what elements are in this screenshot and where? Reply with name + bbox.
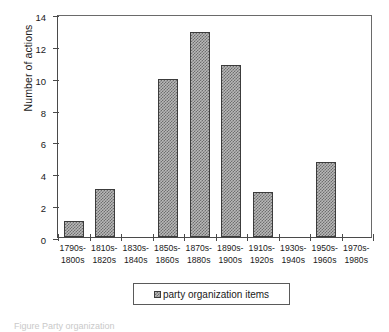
legend-item-label: party organization items (163, 289, 269, 300)
y-axis-tick-label: 2 (41, 203, 46, 214)
x-axis-category-label-line: 1940s (278, 255, 310, 267)
x-axis-category-label-line: 1840s (120, 255, 152, 267)
x-axis-category-label-line: 1880s (183, 255, 215, 267)
x-axis-category-label: 1930s-1940s (278, 243, 310, 266)
x-axis-category-label-line: 1900s (215, 255, 247, 267)
x-axis-category-label: 1950s-1960s (309, 243, 341, 266)
y-axis-tick-label: 4 (41, 171, 46, 182)
x-axis-category-label-line: 1930s- (278, 243, 310, 255)
bar (64, 221, 84, 237)
x-axis-tick (373, 234, 374, 241)
x-axis-category-label-line: 1920s (246, 255, 278, 267)
bar (316, 162, 336, 237)
y-axis-tick-label: 0 (41, 235, 46, 246)
bar (253, 192, 273, 237)
x-axis-category-label: 1910s-1920s (246, 243, 278, 266)
y-axis-tick-label: 14 (35, 12, 46, 23)
figure-caption: Figure Party organization (14, 321, 115, 332)
x-axis-category-label-line: 1850s- (152, 243, 184, 255)
bar (221, 65, 241, 237)
x-axis-category-label-line: 1890s- (215, 243, 247, 255)
x-axis-category-label-line: 1980s (341, 255, 373, 267)
x-axis-category-label-line: 1870s- (183, 243, 215, 255)
y-axis-title: Number of actions (22, 0, 34, 148)
bar (158, 79, 178, 237)
x-axis-category-label: 1790s-1800s (57, 243, 89, 266)
x-axis-category-label: 1830s-1840s (120, 243, 152, 266)
x-axis-category-label-line: 1860s (152, 255, 184, 267)
x-axis-category-label-line: 1810s- (89, 243, 121, 255)
chart-legend: party organization items (133, 283, 290, 305)
bar-series-party-organization-items (58, 16, 371, 237)
x-axis-category-label-line: 1950s- (309, 243, 341, 255)
legend-swatch-icon (154, 291, 161, 298)
y-axis-tick-label: 8 (41, 107, 46, 118)
x-axis-category-label: 1970s-1980s (341, 243, 373, 266)
bar (95, 189, 115, 237)
x-axis-category-label-line: 1830s- (120, 243, 152, 255)
x-axis-category-label: 1890s-1900s (215, 243, 247, 266)
x-axis-category-labels: 1790s-1800s1810s-1820s1830s-1840s1850s-1… (57, 243, 372, 275)
plot-area: 02468101214 (57, 15, 372, 238)
y-axis-tick-label: 12 (35, 43, 46, 54)
y-axis-tick-label: 10 (35, 75, 46, 86)
x-axis-category-label: 1810s-1820s (89, 243, 121, 266)
x-axis-category-label-line: 1960s (309, 255, 341, 267)
y-axis-tick-label: 6 (41, 139, 46, 150)
x-axis-category-label-line: 1910s- (246, 243, 278, 255)
x-axis-category-label-line: 1790s- (57, 243, 89, 255)
bar (190, 32, 210, 237)
bar-chart-figure: Number of actions 02468101214 1790s-1800… (0, 0, 389, 332)
x-axis-category-label-line: 1820s (89, 255, 121, 267)
x-axis-category-label: 1850s-1860s (152, 243, 184, 266)
x-axis-category-label-line: 1970s- (341, 243, 373, 255)
x-axis-category-label-line: 1800s (57, 255, 89, 267)
legend-item-party-organization-items: party organization items (154, 289, 269, 300)
x-axis-category-label: 1870s-1880s (183, 243, 215, 266)
